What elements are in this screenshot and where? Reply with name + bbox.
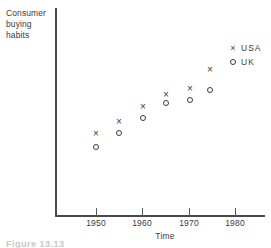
x-axis-label: Time <box>145 231 185 241</box>
data-point-uk <box>205 85 215 95</box>
x-axis-tick <box>189 208 190 216</box>
x-axis-tick <box>142 208 143 216</box>
y-axis-line <box>55 8 57 217</box>
x-axis-tick-label: 1980 <box>218 218 252 228</box>
figure-container: Consumer buying habits 1950196019701980 … <box>0 0 271 248</box>
x-axis-tick-label: 1960 <box>125 218 159 228</box>
x-axis-tick-label: 1970 <box>172 218 206 228</box>
data-point-uk <box>91 142 101 152</box>
legend: USA UK <box>228 41 261 69</box>
data-point-usa <box>114 117 124 127</box>
x-axis-tick <box>96 208 97 216</box>
x-axis-line <box>55 215 265 217</box>
data-point-uk <box>114 128 124 138</box>
data-point-usa <box>138 102 148 112</box>
legend-label-usa: USA <box>241 43 261 53</box>
data-point-uk <box>185 95 195 105</box>
legend-label-uk: UK <box>241 57 255 67</box>
data-point-usa <box>205 65 215 75</box>
x-axis-tick-label: 1950 <box>79 218 113 228</box>
data-point-usa <box>185 84 195 94</box>
x-axis-tick <box>235 208 236 216</box>
y-axis-label: Consumer buying habits <box>6 8 54 41</box>
data-point-usa <box>91 129 101 139</box>
cross-marker-icon <box>228 43 238 53</box>
legend-item-usa: USA <box>228 41 261 55</box>
data-point-uk <box>161 98 171 108</box>
data-point-uk <box>138 113 148 123</box>
figure-caption: Figure 13.13 <box>6 239 65 248</box>
circle-marker-icon <box>228 57 238 67</box>
legend-item-uk: UK <box>228 55 261 69</box>
